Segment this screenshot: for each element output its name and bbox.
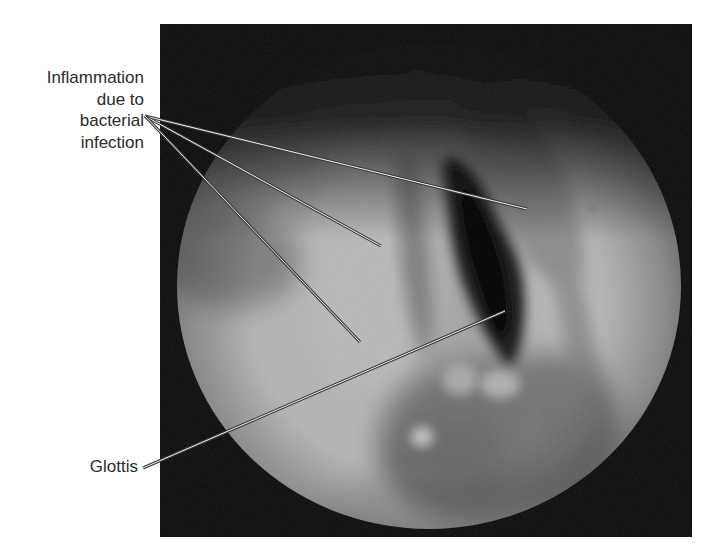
inflammation-label: Inflammation due to bacterial infection [47,67,144,153]
inflammation-label-line-3: bacterial [47,110,144,132]
glottis-label: Glottis [90,456,138,478]
inflammation-label-line-1: Inflammation [47,67,144,89]
scope-view-image [160,24,692,537]
laryngoscope-photo [160,24,692,537]
inflammation-label-line-4: infection [47,132,144,154]
figure-canvas: Inflammation due to bacterial infection … [0,0,719,558]
inflammation-label-line-2: due to [47,89,144,111]
